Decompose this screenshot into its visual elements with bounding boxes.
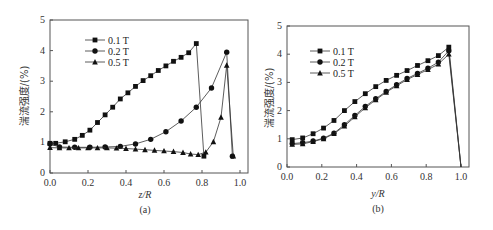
square-marker xyxy=(133,84,138,89)
series-0_2T xyxy=(47,49,235,158)
legend-label: 0.1 T xyxy=(333,46,354,57)
circle-marker xyxy=(148,137,153,142)
caption-a: (a) xyxy=(139,204,150,216)
x-tick-label: 0.4 xyxy=(120,177,133,188)
y-tick-label: 5 xyxy=(40,14,45,25)
legend-label: 0.2 T xyxy=(108,46,129,57)
y-tick-label: 4 xyxy=(277,48,282,59)
x-tick-label: 0.2 xyxy=(82,177,95,188)
y-axis-label-a: 湍流强度/(%) xyxy=(18,66,30,127)
circle-marker xyxy=(317,59,322,64)
x-tick-label: 0.6 xyxy=(158,177,171,188)
square-marker xyxy=(300,136,305,141)
legend-label: 0.5 T xyxy=(108,57,129,68)
x-tick-label: 0.8 xyxy=(196,177,209,188)
square-marker xyxy=(342,108,347,113)
square-marker xyxy=(384,78,389,83)
square-marker xyxy=(426,58,431,63)
x-axis-label-b: y/R xyxy=(370,188,384,199)
square-marker xyxy=(186,50,191,55)
x-tick-label: 1.0 xyxy=(455,171,468,182)
y-tick-label: 4 xyxy=(40,45,45,56)
y-ticks-a: 012345 xyxy=(40,14,53,178)
square-marker xyxy=(332,118,337,123)
series-0_5T xyxy=(47,62,236,158)
y-tick-label: 3 xyxy=(277,76,282,87)
square-marker xyxy=(88,128,93,133)
x-tick-label: 0.0 xyxy=(44,177,57,188)
square-marker xyxy=(103,112,108,117)
square-marker xyxy=(118,97,123,102)
square-marker xyxy=(436,53,441,58)
legend-label: 0.5 T xyxy=(333,68,354,79)
square-marker xyxy=(394,73,399,78)
x-axis-label-a: z/R xyxy=(138,189,152,200)
legend-label: 0.2 T xyxy=(333,57,354,68)
square-marker xyxy=(179,55,184,60)
legend-b: 0.1 T0.2 T0.5 T xyxy=(310,46,354,79)
x-tick-label: 1.0 xyxy=(234,177,247,188)
square-marker xyxy=(321,126,326,131)
square-marker xyxy=(126,90,131,95)
square-marker xyxy=(63,139,68,144)
square-marker xyxy=(405,68,410,73)
y-tick-label: 1 xyxy=(277,133,282,144)
circle-marker xyxy=(163,129,168,134)
square-marker xyxy=(194,41,199,46)
x-tick-label: 0.0 xyxy=(281,171,294,182)
caption-b: (b) xyxy=(372,203,384,215)
series-0_5T xyxy=(289,51,461,167)
square-marker xyxy=(373,84,378,89)
y-tick-label: 0 xyxy=(40,167,45,178)
square-marker xyxy=(141,78,146,83)
chart-a: 0.00.20.40.60.81.0 012345 0.1 T0.2 T0.5 … xyxy=(18,14,248,216)
circle-marker xyxy=(92,48,97,53)
x-tick-label: 0.6 xyxy=(385,171,398,182)
y-tick-label: 2 xyxy=(40,106,45,117)
circle-marker xyxy=(224,49,229,54)
square-marker xyxy=(148,73,153,78)
triangle-marker xyxy=(218,114,224,119)
series-b xyxy=(289,45,461,167)
square-marker xyxy=(318,49,323,54)
y-ticks-b: 012345 xyxy=(277,20,290,172)
y-tick-label: 1 xyxy=(40,136,45,147)
triangle-marker xyxy=(224,62,230,67)
y-tick-label: 3 xyxy=(40,75,45,86)
legend-label: 0.1 T xyxy=(108,35,129,46)
chart-b: 0.00.20.40.60.81.0 012345 0.1 T0.2 T0.5 … xyxy=(263,20,469,215)
square-marker xyxy=(164,64,169,69)
series-0_1T xyxy=(290,45,461,167)
circle-marker xyxy=(178,118,183,123)
square-marker xyxy=(415,63,420,68)
y-tick-label: 2 xyxy=(277,105,282,116)
x-tick-label: 0.2 xyxy=(316,171,329,182)
circle-marker xyxy=(194,105,199,110)
y-tick-label: 5 xyxy=(277,20,282,31)
x-tick-label: 0.8 xyxy=(420,171,433,182)
square-marker xyxy=(156,68,161,73)
square-marker xyxy=(93,38,98,43)
square-marker xyxy=(95,120,100,125)
x-tick-label: 0.4 xyxy=(350,171,363,182)
plot-frame-b xyxy=(287,26,469,167)
series-a xyxy=(47,41,236,159)
square-marker xyxy=(363,91,368,96)
legend-a: 0.1 T0.2 T0.5 T xyxy=(85,35,129,68)
square-marker xyxy=(171,59,176,64)
figure: 0.00.20.40.60.81.0 012345 0.1 T0.2 T0.5 … xyxy=(0,0,493,230)
circle-marker xyxy=(133,141,138,146)
square-marker xyxy=(80,133,85,138)
triangle-marker xyxy=(211,139,217,144)
square-marker xyxy=(110,105,115,110)
square-marker xyxy=(72,137,77,142)
square-marker xyxy=(311,131,316,136)
circle-marker xyxy=(209,85,214,90)
square-marker xyxy=(352,99,357,104)
y-tick-label: 0 xyxy=(277,161,282,172)
y-axis-label-b: 湍流强度/(%) xyxy=(263,68,275,129)
